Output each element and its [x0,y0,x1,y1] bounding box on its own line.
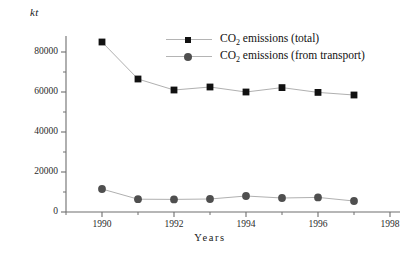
legend-label-transport-rest: emissions (from transport) [240,49,365,61]
legend-item-total: CO2 emissions (total) [166,31,365,48]
y-tick-label: 80000 [12,46,58,56]
data-point-marker [171,87,178,94]
data-point-marker [278,194,286,202]
legend-label-total-main: CO [220,32,236,44]
data-point-marker [135,76,142,83]
y-tick-label: 20000 [12,166,58,176]
circle-marker-icon [184,53,192,61]
square-marker-icon [185,37,191,43]
y-tick-label: 0 [12,206,58,216]
x-axis-title: Years [0,232,420,243]
legend-label-total-rest: emissions (total) [240,32,319,44]
legend-key-circle [166,51,212,62]
chart-legend: CO2 emissions (total) CO2 emissions (fro… [166,31,365,65]
data-point-marker [207,84,214,91]
data-point-marker [170,196,178,204]
legend-label-transport-main: CO [220,49,236,61]
data-point-marker [243,89,250,96]
data-point-marker [279,84,286,91]
x-tick-label: 1998 [370,219,410,229]
legend-label-transport: CO2 emissions (from transport) [220,49,365,64]
y-tick-label: 40000 [12,126,58,136]
x-tick-label: 1990 [82,219,122,229]
x-tick-label: 1992 [154,219,194,229]
data-point-marker [206,195,214,203]
data-point-marker [98,185,106,193]
data-point-marker [242,192,250,200]
data-point-marker [350,197,358,205]
data-point-marker [99,39,106,46]
legend-item-transport: CO2 emissions (from transport) [166,48,365,65]
x-tick-label: 1994 [226,219,266,229]
data-point-marker [134,195,142,203]
legend-key-square [166,34,212,45]
chart-container: kt Years CO2 emissions (total) CO2 emiss… [0,0,420,259]
legend-label-total: CO2 emissions (total) [220,32,319,47]
data-point-marker [315,89,322,96]
data-point-marker [314,194,322,202]
x-tick-label: 1996 [298,219,338,229]
y-tick-label: 60000 [12,86,58,96]
data-point-marker [351,92,358,99]
